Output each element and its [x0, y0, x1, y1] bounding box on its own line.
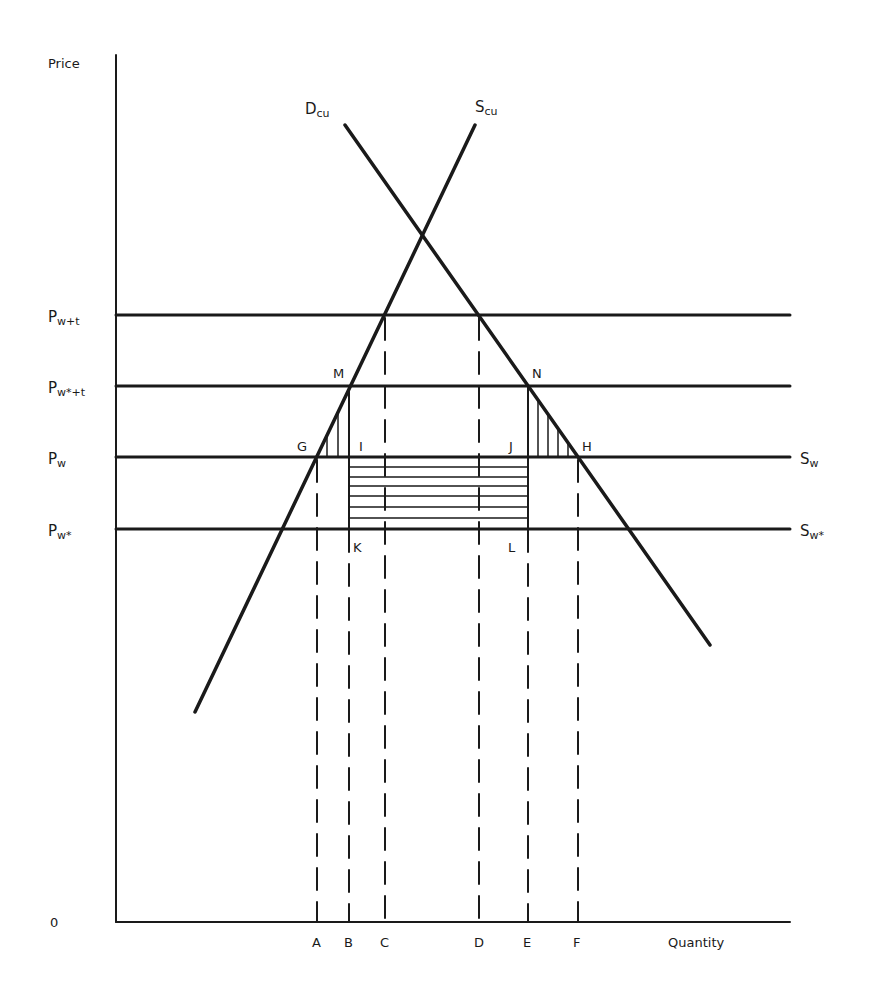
dashed-drop-lines — [317, 318, 578, 922]
world-supply-label-sw-star: Sw* — [800, 522, 825, 542]
rectangle-hatching — [349, 467, 528, 518]
point-label-j: J — [508, 439, 513, 454]
quantity-label-a: A — [312, 935, 321, 950]
point-label-k: K — [353, 540, 362, 555]
quantity-label-f: F — [573, 935, 580, 950]
price-label-pw-plus-t: Pw+t — [48, 308, 80, 328]
price-label-pw-star: Pw* — [48, 522, 72, 542]
point-label-h: H — [582, 439, 592, 454]
price-label-pw: Pw — [48, 450, 66, 470]
x-axis-label: Quantity — [668, 935, 724, 950]
supply-curve-scu — [195, 125, 475, 712]
quantity-label-c: C — [380, 935, 389, 950]
point-label-g: G — [297, 439, 307, 454]
quantity-label-d: D — [474, 935, 484, 950]
quantity-label-e: E — [523, 935, 531, 950]
demand-curve-label: Dcu — [305, 100, 330, 120]
economics-diagram: Price Quantity 0 Dcu Scu Pw+t Pw*+t Pw P… — [0, 0, 875, 998]
point-label-l: L — [508, 540, 516, 555]
supply-curve-label: Scu — [475, 98, 498, 118]
point-label-m: M — [333, 366, 344, 381]
point-label-n: N — [532, 366, 542, 381]
point-label-i: I — [359, 439, 363, 454]
origin-label: 0 — [50, 915, 58, 930]
quantity-label-b: B — [344, 935, 353, 950]
world-supply-label-sw: Sw — [800, 450, 819, 470]
y-axis-label: Price — [48, 56, 80, 71]
price-label-pw-star-plus-t: Pw*+t — [48, 379, 86, 399]
